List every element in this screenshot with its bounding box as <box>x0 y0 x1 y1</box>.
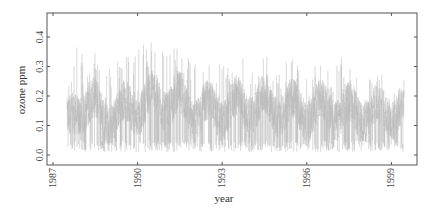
y-tick-label: 0.1 <box>34 119 45 132</box>
ozone-series-path <box>67 43 404 152</box>
y-tick-label: 0.2 <box>34 90 45 103</box>
y-tick-label: 0.0 <box>34 149 45 162</box>
x-tick-label: 1987 <box>47 168 58 188</box>
y-tick-label: 0.4 <box>34 31 45 44</box>
x-tick-label: 1999 <box>385 168 396 188</box>
ozone-timeseries-chart: 19871990199319961999 0.00.10.20.30.4 yea… <box>0 0 437 214</box>
ozone-series-line <box>67 43 404 152</box>
x-tick-label: 1996 <box>301 168 312 188</box>
y-axis-title: ozone ppm <box>15 65 27 114</box>
x-axis-title: year <box>215 192 234 204</box>
x-tick-label: 1990 <box>132 168 143 188</box>
y-tick-label: 0.3 <box>34 60 45 73</box>
x-tick-label: 1993 <box>216 168 227 188</box>
